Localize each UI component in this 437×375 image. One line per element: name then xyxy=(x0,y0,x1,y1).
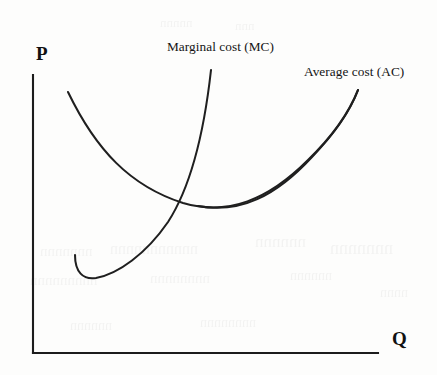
x-axis-label: Q xyxy=(392,329,407,348)
cost-curve-figure: nnnnnnnnnnnnnnnnnnnnnnnnnnnnnnnnnnnnnnnn… xyxy=(0,0,437,375)
marginal-cost-curve xyxy=(75,70,211,278)
marginal-cost-label: Marginal cost (MC) xyxy=(167,39,274,54)
average-cost-curve xyxy=(68,90,358,207)
average-cost-label: Average cost (AC) xyxy=(304,64,404,79)
curves-group xyxy=(0,0,437,375)
y-axis-label: P xyxy=(36,44,48,63)
average-cost-curve-right-segment xyxy=(198,90,358,208)
